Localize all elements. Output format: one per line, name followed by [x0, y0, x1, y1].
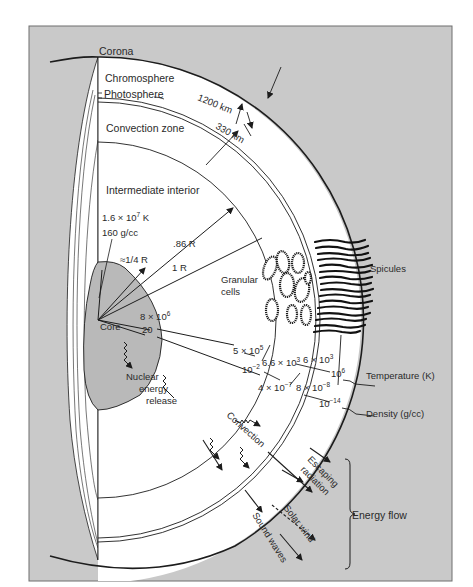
label-1r: 1 R: [172, 262, 187, 273]
label-core-radius: ≈1/4 R: [120, 254, 148, 265]
temp-value-3: 6 × 103: [303, 353, 334, 365]
legend-density: Density (g/cc): [366, 408, 424, 419]
label-core: Core: [100, 321, 121, 332]
label-corona: Corona: [99, 45, 134, 57]
label-photosphere: Photosphere: [104, 88, 164, 100]
label-granular-1: Granular: [221, 274, 258, 285]
legend-temperature: Temperature (K): [366, 370, 435, 381]
label-86r: .86 R: [173, 238, 196, 249]
temp-value-2: 6.6 × 103: [262, 356, 301, 368]
label-chromosphere: Chromosphere: [105, 72, 175, 84]
density-value-0: 20: [142, 324, 153, 335]
sun-structure-diagram: Corona Chromosphere Photosphere Convecti…: [0, 0, 473, 587]
label-spicules: Spicules: [370, 263, 406, 274]
label-nuclear-3: release: [146, 395, 177, 406]
label-nuclear-2: energy: [139, 383, 168, 394]
label-intermediate-interior: Intermediate interior: [106, 184, 200, 196]
label-convection-zone: Convection zone: [106, 122, 184, 134]
temp-value-0: 8 × 106: [140, 310, 171, 322]
label-nuclear-1: Nuclear: [126, 371, 159, 382]
temp-value-1: 5 × 105: [233, 344, 264, 356]
label-granular-2: cells: [221, 286, 240, 297]
label-energy-flow: Energy flow: [352, 509, 407, 521]
core-temperature: 1.6 × 107 K: [102, 211, 150, 223]
core-density: 160 g/cc: [102, 227, 138, 238]
